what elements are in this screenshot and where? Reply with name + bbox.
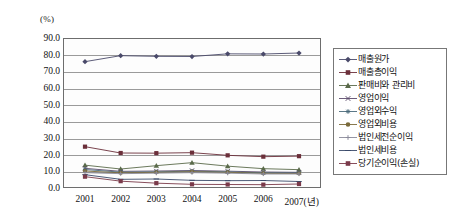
legend-item-label: 법인세전순이익: [358, 132, 413, 143]
y-axis-tick: 0.0: [2, 183, 60, 193]
data-point: [154, 181, 158, 185]
data-point: [119, 151, 123, 155]
y-axis-tick: 10.0: [2, 166, 60, 176]
legend-item-label: 법인세비용: [358, 145, 397, 156]
asterisk-marker-icon: [338, 106, 358, 117]
y-axis-tick: 90.0: [2, 33, 60, 43]
data-point: [189, 54, 194, 59]
data-point: [154, 54, 159, 59]
legend-item-label: 판매비와 관리비: [358, 80, 415, 91]
data-point: [346, 109, 351, 114]
data-point: [297, 182, 301, 186]
data-point: [261, 155, 265, 159]
x-axis-tick-labels: 2001200220032004200520062007(년): [63, 192, 321, 212]
diamond-marker-icon: [338, 54, 358, 65]
chart-lines: [63, 38, 321, 188]
legend-item[interactable]: 영업외비용: [338, 118, 443, 131]
legend-item-label: 영업외비용: [358, 119, 397, 130]
x-axis-tick: 2007(년): [285, 194, 319, 208]
legend-item-label: 영업외수익: [358, 106, 397, 117]
data-point: [83, 175, 87, 179]
data-point: [225, 51, 230, 56]
legend-item[interactable]: 매출총이익: [338, 66, 443, 79]
data-point: [154, 151, 158, 155]
legend-item-label: 매출총이익: [358, 67, 397, 78]
triangle-marker-icon: [338, 80, 358, 91]
legend-item-label: 영업이익: [358, 93, 389, 104]
circle-marker-icon: [338, 119, 358, 130]
chart-container: (%) 90.080.070.060.050.040.030.020.010.0…: [0, 0, 454, 220]
legend-item[interactable]: 매출원가: [338, 53, 443, 66]
data-point: [82, 59, 87, 64]
square-marker-icon: [338, 158, 358, 169]
legend-item[interactable]: 영업이익: [338, 92, 443, 105]
plus-marker-icon: [338, 132, 358, 143]
data-point: [190, 151, 194, 155]
data-point: [119, 179, 123, 183]
data-point: [345, 57, 351, 63]
data-point: [261, 183, 265, 187]
x-axis-tick: 2004: [183, 194, 202, 204]
y-axis-tick: 40.0: [2, 116, 60, 126]
data-point: [226, 153, 230, 157]
legend-item-label: 당기순이익(손실): [358, 158, 419, 169]
data-point: [226, 182, 230, 186]
chart-legend: 매출원가매출총이익판매비와 관리비영업이익영업외수익영업외비용법인세전순이익법인…: [333, 48, 447, 175]
data-point: [346, 135, 351, 140]
square-marker-icon: [338, 67, 358, 78]
legend-item[interactable]: 법인세전순이익: [338, 131, 443, 144]
y-axis-tick: 70.0: [2, 66, 60, 76]
data-point: [346, 122, 351, 127]
cross-x-marker-icon: [338, 93, 358, 104]
data-point: [297, 154, 301, 158]
legend-item-label: 매출원가: [358, 54, 389, 65]
data-point: [118, 53, 123, 58]
dash-marker-icon: [338, 145, 358, 156]
y-axis-tick: 20.0: [2, 150, 60, 160]
legend-item[interactable]: 당기순이익(손실): [338, 157, 443, 170]
y-axis-tick-labels: 90.080.070.060.050.040.030.020.010.00.0: [0, 0, 60, 220]
data-point: [346, 70, 351, 75]
x-axis-tick: 2002: [111, 194, 130, 204]
x-axis-tick: 2005: [218, 194, 237, 204]
x-axis-tick: 2003: [147, 194, 166, 204]
data-point: [296, 50, 301, 55]
data-point: [83, 145, 87, 149]
data-point: [346, 161, 351, 166]
x-axis-tick: 2001: [76, 194, 95, 204]
legend-item[interactable]: 영업외수익: [338, 105, 443, 118]
y-axis-tick: 30.0: [2, 133, 60, 143]
data-point: [190, 182, 194, 186]
x-axis-tick: 2006: [254, 194, 273, 204]
legend-item[interactable]: 법인세비용: [338, 144, 443, 157]
legend-item[interactable]: 판매비와 관리비: [338, 79, 443, 92]
y-axis-tick: 60.0: [2, 83, 60, 93]
y-axis-tick: 80.0: [2, 50, 60, 60]
y-axis-tick: 50.0: [2, 100, 60, 110]
data-point: [261, 51, 266, 56]
